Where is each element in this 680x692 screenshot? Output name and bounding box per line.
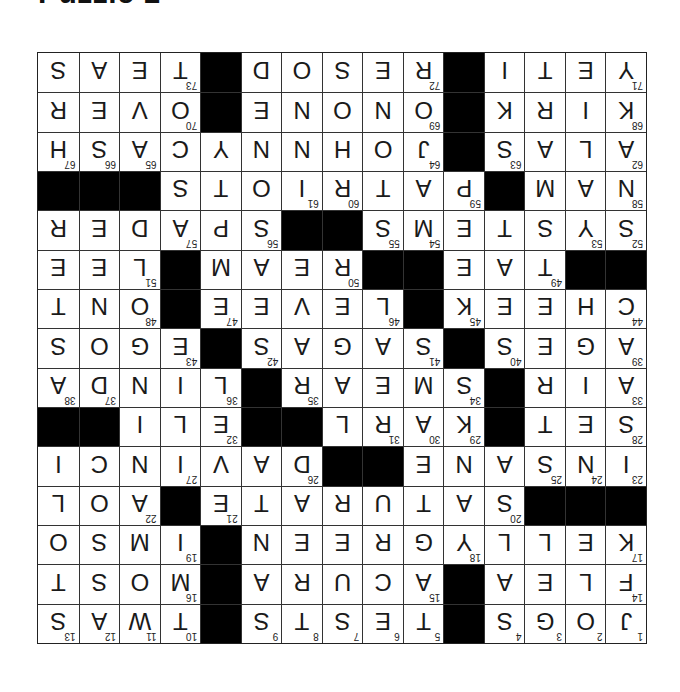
grid-cell[interactable]: R — [281, 564, 322, 603]
grid-cell[interactable]: D — [241, 53, 282, 92]
grid-cell[interactable]: O — [362, 132, 403, 171]
grid-cell[interactable]: 68K — [605, 92, 646, 131]
grid-cell[interactable]: 15A — [403, 564, 444, 603]
grid-cell[interactable]: H — [565, 289, 606, 328]
grid-cell[interactable]: 1J — [605, 604, 646, 643]
grid-cell[interactable]: O — [322, 92, 363, 131]
grid-cell[interactable]: E — [322, 289, 363, 328]
grid-cell[interactable]: 9S — [241, 604, 282, 643]
grid-cell[interactable]: N — [241, 132, 282, 171]
grid-cell[interactable]: 57A — [160, 210, 201, 249]
grid-cell[interactable]: P — [200, 210, 241, 249]
grid-cell[interactable]: A — [362, 328, 403, 367]
grid-cell[interactable]: 54M — [403, 210, 444, 249]
grid-cell[interactable]: Y — [200, 132, 241, 171]
grid-cell[interactable]: 20S — [484, 486, 525, 525]
grid-cell[interactable]: 5T — [403, 604, 444, 643]
grid-cell[interactable]: 31R — [362, 407, 403, 446]
grid-cell[interactable]: A — [403, 171, 444, 210]
grid-cell[interactable]: 71Y — [605, 53, 646, 92]
grid-cell[interactable]: U — [362, 486, 403, 525]
grid-cell[interactable]: E — [281, 525, 322, 564]
grid-cell[interactable]: R — [38, 92, 79, 131]
grid-cell[interactable]: N — [443, 446, 484, 485]
grid-cell[interactable]: 61I — [281, 171, 322, 210]
grid-cell[interactable]: 72R — [403, 53, 444, 92]
grid-cell[interactable]: A — [484, 250, 525, 289]
grid-cell[interactable]: 46L — [362, 289, 403, 328]
grid-cell[interactable]: E — [79, 210, 120, 249]
grid-cell[interactable]: E — [241, 289, 282, 328]
grid-cell[interactable]: E — [79, 250, 120, 289]
grid-cell[interactable]: 66S — [79, 132, 120, 171]
grid-cell[interactable]: N — [119, 446, 160, 485]
grid-cell[interactable]: E — [524, 328, 565, 367]
grid-cell[interactable]: 4S — [484, 604, 525, 643]
grid-cell[interactable]: 38A — [38, 368, 79, 407]
grid-cell[interactable]: E — [443, 250, 484, 289]
grid-cell[interactable]: A — [524, 132, 565, 171]
grid-cell[interactable]: 52S — [605, 210, 646, 249]
grid-cell[interactable]: 21E — [200, 486, 241, 525]
grid-cell[interactable]: L — [322, 407, 363, 446]
grid-cell[interactable]: 14F — [605, 564, 646, 603]
grid-cell[interactable]: R — [362, 525, 403, 564]
grid-cell[interactable]: G — [119, 328, 160, 367]
grid-cell[interactable]: 58N — [605, 171, 646, 210]
grid-cell[interactable]: S — [79, 564, 120, 603]
grid-cell[interactable]: L — [160, 407, 201, 446]
grid-cell[interactable]: E — [524, 564, 565, 603]
grid-cell[interactable]: 11W — [119, 604, 160, 643]
grid-cell[interactable]: T — [484, 210, 525, 249]
grid-cell[interactable]: 27I — [160, 446, 201, 485]
grid-cell[interactable]: 56S — [241, 210, 282, 249]
grid-cell[interactable]: M — [200, 250, 241, 289]
grid-cell[interactable]: 55S — [362, 210, 403, 249]
grid-cell[interactable]: 29K — [443, 407, 484, 446]
grid-cell[interactable]: T — [524, 53, 565, 92]
grid-cell[interactable]: N — [241, 525, 282, 564]
grid-cell[interactable]: 2O — [565, 604, 606, 643]
grid-cell[interactable]: 65A — [119, 132, 160, 171]
grid-cell[interactable]: M — [119, 525, 160, 564]
grid-cell[interactable]: C — [362, 564, 403, 603]
grid-cell[interactable]: N — [281, 132, 322, 171]
grid-cell[interactable]: G — [322, 328, 363, 367]
grid-cell[interactable]: S — [79, 525, 120, 564]
grid-cell[interactable]: 73T — [160, 53, 201, 92]
grid-cell[interactable]: T — [200, 171, 241, 210]
grid-cell[interactable]: A — [241, 564, 282, 603]
grid-cell[interactable]: 49T — [524, 250, 565, 289]
grid-cell[interactable]: V — [119, 92, 160, 131]
grid-cell[interactable]: S — [160, 171, 201, 210]
grid-cell[interactable]: K — [484, 92, 525, 131]
grid-cell[interactable]: H — [322, 132, 363, 171]
grid-cell[interactable]: E — [79, 92, 120, 131]
grid-cell[interactable]: 24N — [565, 446, 606, 485]
grid-cell[interactable]: O — [119, 564, 160, 603]
grid-cell[interactable]: 44C — [605, 289, 646, 328]
grid-cell[interactable]: A — [443, 486, 484, 525]
grid-cell[interactable]: T — [38, 289, 79, 328]
grid-cell[interactable]: 45K — [443, 289, 484, 328]
grid-cell[interactable]: 67H — [38, 132, 79, 171]
grid-cell[interactable]: 16M — [160, 564, 201, 603]
grid-cell[interactable]: A — [241, 446, 282, 485]
grid-cell[interactable]: 13S — [38, 604, 79, 643]
grid-cell[interactable]: T — [241, 486, 282, 525]
grid-cell[interactable]: 26D — [281, 446, 322, 485]
grid-cell[interactable]: E — [281, 250, 322, 289]
grid-cell[interactable]: N — [79, 289, 120, 328]
grid-cell[interactable]: 47E — [200, 289, 241, 328]
grid-cell[interactable]: I — [565, 368, 606, 407]
grid-cell[interactable]: E — [565, 407, 606, 446]
grid-cell[interactable]: 42S — [241, 328, 282, 367]
grid-cell[interactable]: 6E — [362, 604, 403, 643]
grid-cell[interactable]: S — [322, 53, 363, 92]
grid-cell[interactable]: D — [119, 210, 160, 249]
grid-cell[interactable]: 48O — [119, 289, 160, 328]
grid-cell[interactable]: 22A — [119, 486, 160, 525]
grid-cell[interactable]: A — [484, 446, 525, 485]
grid-cell[interactable]: A — [79, 53, 120, 92]
grid-cell[interactable]: 30A — [403, 407, 444, 446]
